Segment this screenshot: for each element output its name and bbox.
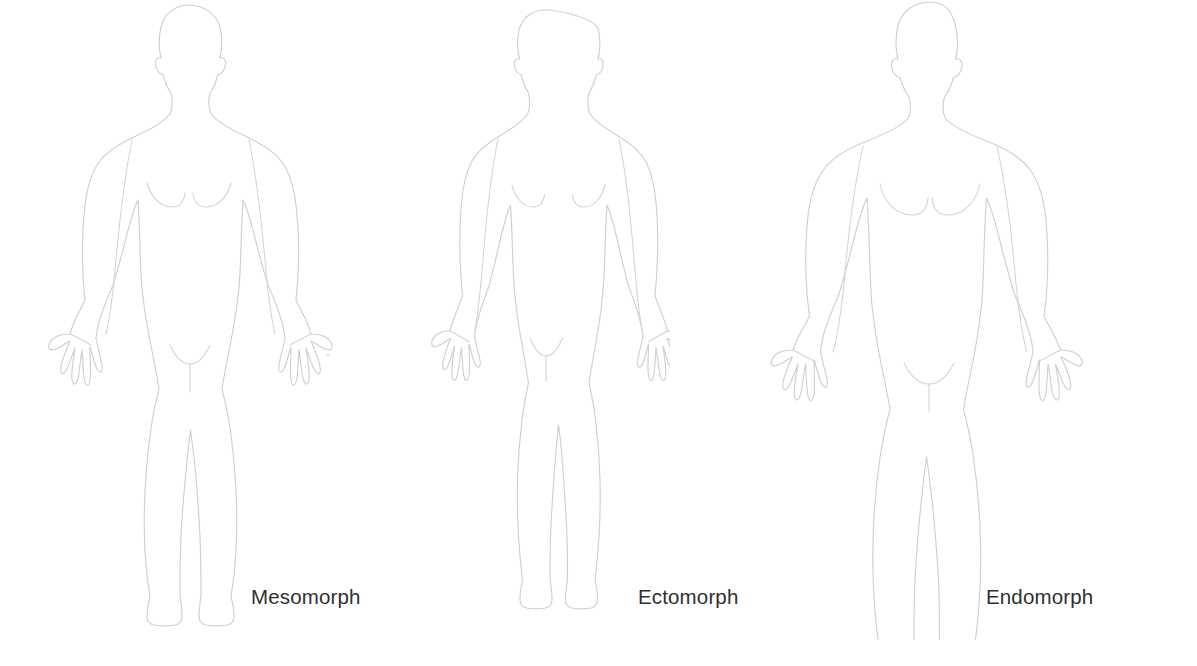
ectomorph-outline-group xyxy=(432,10,670,609)
somatotype-illustration-board: Mesomorph Ectomorph xyxy=(0,0,1197,666)
body-figure-mesomorph xyxy=(44,0,334,640)
figure-label-endomorph: Endomorph xyxy=(986,587,1093,608)
endomorph-body-outline xyxy=(771,2,1082,640)
endomorph-outline-group xyxy=(771,2,1082,640)
body-figure-ectomorph xyxy=(420,0,670,640)
stray-speck-mark xyxy=(326,353,330,357)
mesomorph-outline-group xyxy=(49,5,332,626)
body-figure-endomorph xyxy=(770,0,1090,640)
mesomorph-body-outline xyxy=(49,5,332,626)
figure-label-ectomorph: Ectomorph xyxy=(638,587,738,608)
ectomorph-silhouette-svg xyxy=(420,0,670,640)
figure-label-mesomorph: Mesomorph xyxy=(251,587,361,608)
endomorph-silhouette-svg xyxy=(770,0,1090,640)
ectomorph-body-outline xyxy=(432,10,670,609)
mesomorph-silhouette-svg xyxy=(44,0,334,640)
